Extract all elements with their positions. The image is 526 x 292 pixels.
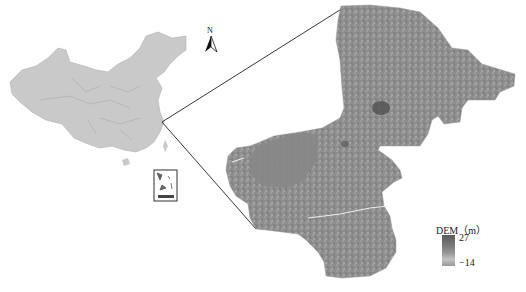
south-china-sea-inset — [154, 170, 177, 201]
north-arrow-icon — [203, 26, 219, 54]
north-arrow: N — [203, 26, 219, 54]
dem-legend: DEM（m） 27 −14 — [436, 222, 516, 272]
legend-max-label: 27 — [459, 232, 469, 243]
legend-min-label: −14 — [459, 257, 475, 268]
legend-color-ramp — [442, 235, 455, 266]
location-map-figure: N DEM（m） 27 −14 — [0, 0, 526, 292]
china-overview-map — [10, 32, 186, 166]
china-mainland — [10, 32, 186, 152]
taiwan-island — [163, 140, 168, 152]
hainan-island — [122, 158, 130, 166]
urban-high-elevation — [372, 101, 390, 115]
